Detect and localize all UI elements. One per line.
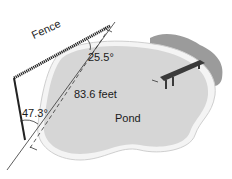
angle-bottom-label: 47.3° xyxy=(22,108,48,119)
distance-label: 83.6 feet xyxy=(74,89,117,100)
angle-top-label: 25.5° xyxy=(88,52,114,63)
pond-label: Pond xyxy=(115,113,141,124)
pond-water xyxy=(44,46,208,154)
tick-bottom xyxy=(30,147,37,150)
